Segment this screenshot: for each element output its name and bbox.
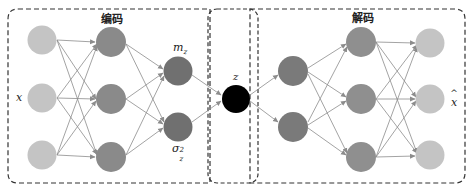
latent-params-layer <box>164 57 193 142</box>
variance-symbol: σ <box>172 142 180 155</box>
hidden-node <box>346 27 376 57</box>
decoder-hidden-layer-1 <box>278 56 308 142</box>
hidden-node <box>96 84 126 114</box>
mean-node <box>164 57 193 86</box>
output-symbol: x <box>450 98 458 107</box>
latent-z-label: z <box>233 71 238 82</box>
variance-node <box>164 113 193 142</box>
hidden-node <box>96 142 126 172</box>
latent-z-node <box>222 85 250 113</box>
output-label: ^ x <box>450 89 458 107</box>
output-node <box>416 85 445 114</box>
hidden-node <box>96 27 126 57</box>
vae-diagram <box>0 0 469 191</box>
encoder-hidden-layer <box>96 27 126 172</box>
variance-superscript: 2 <box>180 146 184 154</box>
output-node <box>416 141 445 170</box>
decoder-title: 解码 <box>352 9 374 25</box>
hidden-node <box>346 84 376 114</box>
encoder-input-layer <box>28 26 57 170</box>
input-node <box>28 84 57 113</box>
hidden-node <box>278 112 308 142</box>
decoder-hidden-layer-2 <box>346 27 376 172</box>
input-node <box>28 26 57 55</box>
decoder-output-layer <box>416 29 445 170</box>
output-node <box>416 29 445 58</box>
hidden-node <box>346 142 376 172</box>
hidden-node <box>278 56 308 86</box>
encoder-title: 编码 <box>101 10 123 26</box>
variance-subscript: z <box>180 155 184 163</box>
mean-subscript: z <box>183 48 187 56</box>
input-node <box>28 141 57 170</box>
mean-label: mz <box>173 41 187 56</box>
variance-label: σ2z <box>172 142 186 155</box>
input-label: x <box>16 91 22 104</box>
mean-symbol: m <box>173 41 183 54</box>
